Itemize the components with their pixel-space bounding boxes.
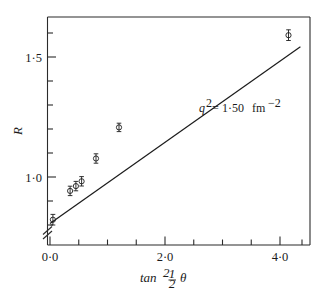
- annotation-symbol: q: [199, 101, 205, 115]
- x-tick-label-2-0: 2·0: [157, 250, 174, 264]
- data-point: [68, 186, 73, 195]
- annotation-unit-exponent: −2: [268, 96, 281, 110]
- data-point: [73, 181, 78, 190]
- data-point: [79, 177, 84, 186]
- fit-line: [50, 47, 300, 224]
- data-point: [116, 123, 121, 131]
- data-point: [286, 30, 291, 41]
- y-tick-label-1-5: 1·5: [25, 51, 42, 65]
- scatter-plot: 1·5 1·0 0·0 2·0 4·0 R tan 2 1 2 θ: [0, 0, 335, 294]
- x-tick-label-4-0: 4·0: [272, 250, 289, 264]
- x-tick-label-0-0: 0·0: [42, 250, 59, 264]
- y-axis-minor-ticks: [48, 33, 54, 225]
- y-axis-major-ticks: [48, 57, 57, 177]
- annotation-value: 1·50: [222, 101, 244, 115]
- x-axis-title-fraction-denominator: 2: [169, 276, 176, 291]
- y-tick-label-1-0: 1·0: [25, 171, 42, 185]
- x-axis-major-ticks: [50, 237, 280, 246]
- annotation-unit: fm: [252, 101, 266, 115]
- figure-container: 1·5 1·0 0·0 2·0 4·0 R tan 2 1 2 θ: [0, 0, 335, 294]
- y-axis-title: R: [10, 127, 25, 136]
- annotation-q-squared: q 2 = 1·50 fm −2: [199, 96, 281, 115]
- x-axis-minor-ticks: [79, 240, 302, 246]
- x-axis-title-fn: tan: [140, 270, 157, 285]
- x-axis-title: tan 2 1 2 θ: [140, 265, 187, 292]
- annotation-equals: =: [212, 101, 219, 115]
- x-axis-title-theta: θ: [180, 270, 187, 285]
- plot-frame: [48, 17, 311, 245]
- data-point: [93, 154, 98, 163]
